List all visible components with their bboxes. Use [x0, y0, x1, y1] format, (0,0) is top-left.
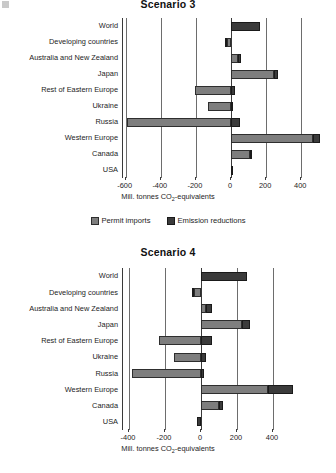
- tick-mark: [230, 177, 231, 180]
- co2-subscript: 2: [172, 196, 175, 202]
- tick-mark: [195, 177, 196, 180]
- category-axis: WorldDeveloping countriesAustralia and N…: [0, 268, 122, 430]
- category-label: USA: [0, 166, 122, 173]
- bar-row: [123, 401, 302, 410]
- value-axis-caption: Mill. tonnes CO2-equivalents: [0, 444, 336, 453]
- bar-segment-emission-reductions: [206, 304, 211, 313]
- bar-row: [123, 272, 302, 281]
- bar-segment-emission-reductions: [197, 417, 202, 426]
- bar-segment-emission-reductions: [231, 22, 260, 31]
- bar-segment-emission-reductions: [201, 353, 206, 362]
- bar-row: [123, 320, 302, 329]
- category-label: Australia and New Zealand: [0, 54, 122, 61]
- tick-label: -400: [121, 433, 136, 442]
- tick-label: 200: [230, 433, 242, 442]
- legend-label: Permit imports: [102, 216, 151, 225]
- bar-row: [123, 102, 330, 111]
- bar-row: [123, 38, 330, 47]
- bar-segment-permit-imports: [194, 288, 201, 297]
- category-label: Japan: [0, 321, 122, 328]
- bar-segment-permit-imports: [231, 150, 250, 159]
- chart-scenario-3: Scenario 3WorldDeveloping countriesAustr…: [0, 0, 336, 232]
- bar-segment-permit-imports: [201, 320, 242, 329]
- bar-row: [123, 150, 330, 159]
- category-label: Rest of Eastern Europe: [0, 337, 122, 344]
- category-label: Western Europe: [0, 386, 122, 393]
- legend-swatch-imports: [91, 217, 99, 225]
- bar-row: [123, 288, 302, 297]
- legend-label: Emission reductions: [178, 216, 246, 225]
- bar-segment-permit-imports: [231, 54, 238, 63]
- bar-segment-permit-imports: [227, 38, 231, 47]
- bar-row: [123, 166, 330, 175]
- plot-area: [122, 18, 330, 178]
- category-label: World: [0, 22, 122, 29]
- bar-segment-permit-imports: [201, 401, 219, 410]
- bar-row: [123, 134, 330, 143]
- category-label: Russia: [0, 118, 122, 125]
- legend-swatch-reductions: [167, 217, 175, 225]
- category-label: USA: [0, 418, 122, 425]
- bar-segment-emission-reductions: [274, 70, 278, 79]
- tick-label: -200: [187, 181, 202, 190]
- bar-segment-permit-imports: [159, 336, 201, 345]
- bar-segment-permit-imports: [195, 86, 231, 95]
- category-label: Russia: [0, 370, 122, 377]
- legend-item[interactable]: Emission reductions: [167, 216, 246, 225]
- bar-segment-permit-imports: [231, 134, 313, 143]
- bar-rows: [123, 18, 330, 178]
- category-label: Canada: [0, 150, 122, 157]
- bar-row: [123, 353, 302, 362]
- category-label: Developing countries: [0, 289, 122, 296]
- tick-mark: [300, 177, 301, 180]
- bar-segment-emission-reductions: [219, 401, 223, 410]
- bar-row: [123, 385, 302, 394]
- bar-segment-emission-reductions: [201, 272, 247, 281]
- bar-segment-permit-imports: [231, 70, 274, 79]
- bar-segment-emission-reductions: [268, 385, 293, 394]
- bar-segment-permit-imports: [174, 353, 201, 362]
- bar-segment-emission-reductions: [231, 118, 240, 127]
- bar-segment-emission-reductions: [192, 288, 194, 297]
- tick-label: 0: [198, 433, 202, 442]
- category-axis: WorldDeveloping countriesAustralia and N…: [0, 18, 122, 178]
- bar-row: [123, 54, 330, 63]
- tick-mark: [164, 429, 165, 432]
- tick-label: -400: [152, 181, 167, 190]
- bar-segment-emission-reductions: [201, 369, 204, 378]
- category-label: World: [0, 272, 122, 279]
- bar-segment-permit-imports: [208, 102, 231, 111]
- bar-segment-emission-reductions: [238, 54, 241, 63]
- tick-mark: [200, 429, 201, 432]
- bar-segment-emission-reductions: [225, 38, 227, 47]
- legend-item[interactable]: Permit imports: [91, 216, 151, 225]
- tick-mark: [265, 177, 266, 180]
- bar-segment-emission-reductions: [201, 336, 212, 345]
- tick-label: 400: [294, 181, 306, 190]
- category-label: Ukraine: [0, 102, 122, 109]
- tick-label: -200: [157, 433, 172, 442]
- bar-row: [123, 22, 330, 31]
- bar-segment-emission-reductions: [242, 320, 250, 329]
- bar-segment-emission-reductions: [231, 166, 233, 175]
- category-label: Ukraine: [0, 353, 122, 360]
- category-label: Japan: [0, 70, 122, 77]
- category-label: Australia and New Zealand: [0, 305, 122, 312]
- co2-subscript: 2: [172, 448, 175, 454]
- tick-mark: [125, 177, 126, 180]
- bar-row: [123, 86, 330, 95]
- value-axis-caption: Mill. tonnes CO2-equivalents: [0, 192, 336, 201]
- bar-segment-emission-reductions: [250, 150, 252, 159]
- plot-area: [122, 268, 302, 430]
- bar-row: [123, 369, 302, 378]
- category-label: Developing countries: [0, 38, 122, 45]
- bar-row: [123, 70, 330, 79]
- bar-segment-permit-imports: [127, 118, 231, 127]
- bar-row: [123, 118, 330, 127]
- bar-segment-emission-reductions: [313, 134, 321, 143]
- bar-row: [123, 336, 302, 345]
- category-label: Rest of Eastern Europe: [0, 86, 122, 93]
- bar-rows: [123, 268, 302, 430]
- tick-label: 200: [259, 181, 271, 190]
- tick-mark: [160, 177, 161, 180]
